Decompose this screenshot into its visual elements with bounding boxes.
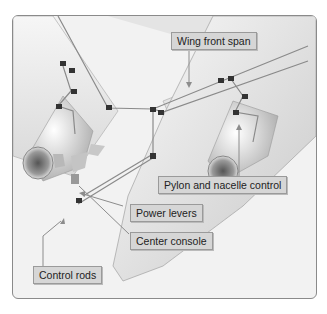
diagram-frame: Wing front span Pylon and nacelle contro… — [12, 15, 317, 299]
label-center-console: Center console — [130, 232, 213, 250]
label-power-levers: Power levers — [130, 204, 203, 222]
label-control-rods: Control rods — [33, 266, 102, 284]
cockpit-panel-right — [88, 144, 105, 156]
label-pylon-nacelle-control: Pylon and nacelle control — [158, 176, 287, 194]
aircraft-illustration — [13, 16, 316, 298]
label-wing-front-span: Wing front span — [171, 32, 257, 50]
center-console-shape — [71, 174, 79, 184]
left-engine-intake — [23, 147, 53, 179]
cockpit-panel-left — [53, 154, 65, 168]
